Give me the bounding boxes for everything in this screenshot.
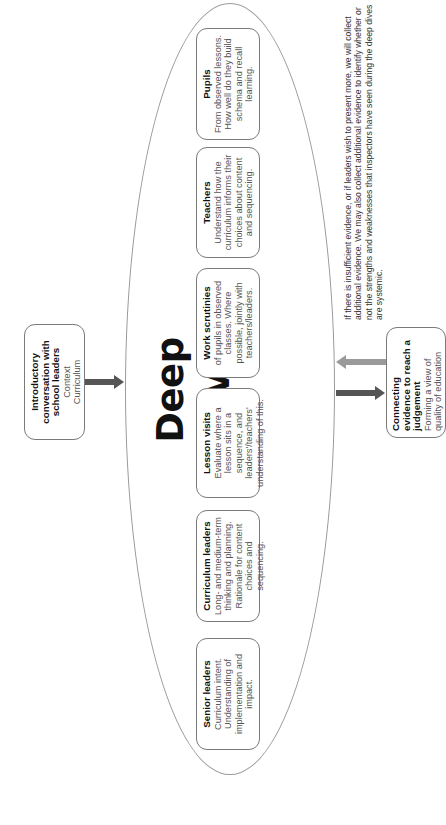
additional-evidence-note: If there is insufficient evidence, or if… xyxy=(343,2,385,320)
intro-box-title: Introductory conversation with school le… xyxy=(30,330,62,434)
box-title: Senior leaders xyxy=(202,644,213,744)
work-scrutinies-box: Work scrutinies of pupils in observed cl… xyxy=(196,268,260,378)
lesson-visits-box: Lesson visits Evaluate where a lesson si… xyxy=(196,388,260,498)
curriculum-leaders-box: Curriculum leaders Long- and medium-term… xyxy=(196,510,260,622)
box-description: of pupils in observed classes. Where pos… xyxy=(213,274,255,372)
box-title: Lesson visits xyxy=(202,394,213,492)
arrow-intro-to-deep-dive xyxy=(85,379,125,385)
box-title: Curriculum leaders xyxy=(202,516,213,616)
teachers-box: Teachers Understand how the curriculum i… xyxy=(196,147,260,258)
box-title: Pupils xyxy=(202,34,213,134)
arrow-deep-dive-to-judgement xyxy=(336,390,386,396)
box-title: Teachers xyxy=(202,153,213,252)
box-description: Curriculum intent. Understanding of impl… xyxy=(213,644,255,744)
pupils-box: Pupils From observed lessons. How well d… xyxy=(196,28,260,140)
connect-box-title: Connecting evidence to reach a judgement xyxy=(391,334,423,431)
box-description: Understand how the curriculum informs th… xyxy=(213,153,255,252)
deep-dive-title: Deep dive xyxy=(148,295,194,485)
box-description: Evaluate where a lesson sits in a sequen… xyxy=(213,394,266,492)
box-description: Long- and medium-term thinking and plann… xyxy=(213,516,266,616)
intro-conversation-box: Introductory conversation with school le… xyxy=(24,324,85,440)
intro-box-line-context: Context xyxy=(62,330,73,434)
connect-box-description: Forming a view of quality of education xyxy=(423,334,444,431)
arrow-judgement-to-deep-dive xyxy=(336,359,386,365)
senior-leaders-box: Senior leaders Curriculum intent. Unders… xyxy=(196,638,260,750)
connecting-evidence-box: Connecting evidence to reach a judgement… xyxy=(386,327,446,438)
box-title: Work scrutinies xyxy=(202,274,213,372)
intro-box-line-curriculum: Curriculum xyxy=(72,330,83,434)
box-description: From observed lessons. How well do they … xyxy=(213,34,255,134)
